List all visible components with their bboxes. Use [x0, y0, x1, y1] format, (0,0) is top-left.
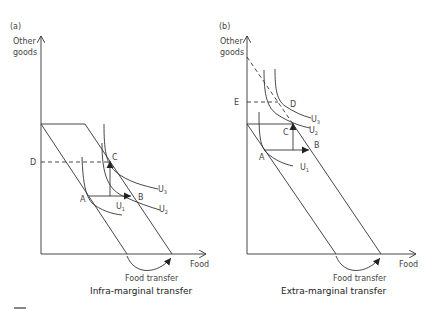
panel-b-original-budget-line: [247, 124, 336, 254]
panel-a-point-b: B: [138, 193, 144, 202]
panel-a-curve-u1-label: U1: [116, 202, 125, 212]
panel-b-point-b: B: [314, 141, 320, 150]
panel-b-point-a: A: [259, 153, 265, 162]
panel-a-point-d: D: [30, 158, 36, 167]
panel-b-x-axis-label: Food: [399, 260, 418, 269]
panel-b-y-axis-label-line2: goods: [220, 48, 244, 57]
panel-b-curve-u3-label: U3: [311, 115, 320, 125]
footer-rule: [14, 307, 26, 309]
panel-b-point-e: E: [234, 98, 239, 107]
panel-a-food-transfer-label: Food transfer: [125, 274, 179, 283]
panel-b-curve-u2-label: U2: [309, 126, 318, 136]
panel-b-food-transfer-label: Food transfer: [333, 274, 387, 283]
panel-a-curve-u2-label: U2: [159, 205, 168, 215]
panel-b-label: (b): [219, 22, 230, 31]
diagram-canvas: (a) Other goods Food D U1 U2 U3 A B C Fo…: [0, 0, 434, 311]
panel-a-original-budget-line: [41, 124, 127, 254]
panel-a-point-c: C: [112, 153, 118, 162]
panel-a-title: Infra-marginal transfer: [90, 286, 192, 296]
panel-b-curve-u1-label: U1: [300, 163, 309, 173]
panel-a-y-axis-label-line2: goods: [13, 48, 37, 57]
panel-b-extended-budget-dashed: [247, 57, 293, 124]
panel-a: (a) Other goods Food D U1 U2 U3 A B C Fo…: [10, 22, 209, 296]
panel-b-y-axis-label-line1: Other: [220, 37, 243, 46]
panel-a-point-a: A: [80, 195, 86, 204]
panel-a-food-transfer-arrow: [127, 256, 171, 271]
panel-a-new-budget-line: [41, 124, 172, 254]
panel-b-point-d: D: [290, 100, 296, 109]
panel-b-curve-u3: [275, 69, 311, 118]
panel-b-curve-u2: [264, 70, 310, 128]
panel-b-food-transfer-arrow: [336, 256, 380, 271]
panel-a-label: (a): [10, 22, 21, 31]
panel-b-point-c: C: [283, 128, 289, 137]
panel-a-x-axis-label: Food: [190, 260, 209, 269]
panel-a-curve-u2: [102, 143, 160, 210]
panel-a-y-axis-label-line1: Other: [13, 37, 36, 46]
panel-b: (b) Other goods Food E U1 U2 U3 A B C D: [219, 22, 418, 296]
panel-a-curve-u3-label: U3: [158, 185, 167, 195]
panel-b-title: Extra-marginal transfer: [281, 286, 386, 296]
